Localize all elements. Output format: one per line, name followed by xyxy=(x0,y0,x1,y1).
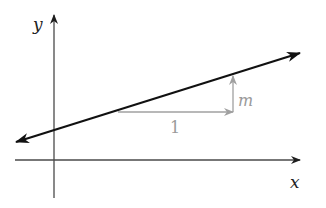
rise-label: m xyxy=(238,91,253,110)
x-axis-label: x xyxy=(290,172,300,192)
y-axis-label: y xyxy=(32,14,43,34)
sloped-line xyxy=(16,53,300,142)
slope-diagram: y x 1 m xyxy=(0,0,326,208)
run-label: 1 xyxy=(170,118,180,137)
